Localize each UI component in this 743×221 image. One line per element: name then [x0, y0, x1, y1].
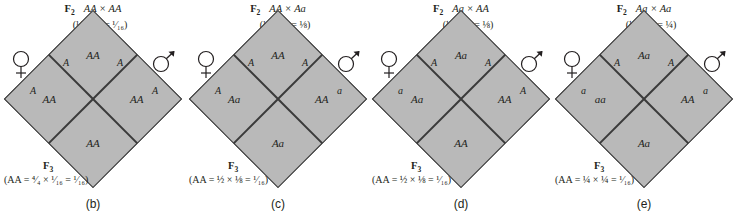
panel-b-female-gamete-top: A: [63, 57, 69, 68]
panel-d-cell-top-text: AA: [499, 93, 512, 105]
male-symbol: [519, 48, 545, 78]
panel-b-offspring-generation-label: F3: [43, 160, 53, 174]
panel-d-cell-left-text: Aa: [455, 49, 467, 61]
female-symbol: [559, 50, 585, 80]
panel-e-offspring-generation-label: F3: [594, 160, 604, 174]
panel-b-result: (AA = ⁴⁄₄ × ¹⁄₁₆ = ¹⁄₁₆): [0, 174, 150, 185]
panel-c-label: (c): [185, 197, 371, 211]
panel-b-square: AA AA AA AA: [30, 36, 156, 162]
panel-e-male-gamete-bottom: a: [703, 85, 708, 96]
panel-d-cell-right-text: AA: [454, 137, 467, 149]
panel-e-generation-label: F2: [617, 3, 627, 14]
panel-c-grid: AA AA Aa Aa: [189, 10, 367, 188]
female-symbol: [8, 50, 34, 80]
panel-c-generation-label: F2: [250, 3, 260, 14]
panel-b-cell-right-text: AA: [86, 137, 99, 149]
panel-e-cell-top-text: AA: [682, 93, 695, 105]
panel-d-square: Aa AA Aa AA: [398, 36, 524, 162]
panel-c-result: (AA = ½ × ⅛ = ¹⁄₁₆): [185, 174, 335, 185]
panel-c-female-gamete-top: A: [248, 57, 254, 68]
panel-b-male-gamete-bottom: A: [152, 85, 158, 96]
panel-e-result: (AA = ¼ × ¼ = ¹⁄₁₆): [551, 174, 701, 185]
panel-e-label: (e): [551, 197, 737, 211]
panel-b: F2AA × AA (¼ × ¼ = ¹⁄₁₆) AA AA AA AA A A…: [0, 0, 186, 221]
panel-e-male-gamete-top: A: [668, 57, 674, 68]
panel-b-generation-label: F2: [65, 3, 75, 14]
panel-d-offspring-generation-label: F3: [411, 160, 421, 174]
female-symbol: [193, 50, 219, 80]
panel-d-male-gamete-bottom: A: [520, 85, 526, 96]
female-symbol: [376, 50, 402, 80]
panel-e-cell-left-text: Aa: [638, 49, 650, 61]
panel-e-cell-bottom-text: aa: [594, 93, 605, 105]
panel-b-male-gamete-top: A: [117, 57, 123, 68]
male-symbol: [702, 48, 728, 78]
panel-b-grid: AA AA AA AA: [4, 10, 182, 188]
panel-d-male-gamete-top: A: [485, 57, 491, 68]
panel-c-cell-bottom-text: Aa: [228, 93, 240, 105]
panel-d-female-gamete-bottom: a: [398, 85, 403, 96]
panel-e-female-gamete-top: A: [614, 57, 620, 68]
panel-e-grid: Aa AA aa Aa: [555, 10, 733, 188]
panel-c-female-gamete-bottom: A: [215, 85, 221, 96]
male-symbol: [336, 48, 362, 78]
punnett-square-figure: F2AA × AA (¼ × ¼ = ¹⁄₁₆) AA AA AA AA A A…: [0, 0, 743, 221]
panel-d-female-gamete-top: A: [431, 57, 437, 68]
panel-d-label: (d): [368, 197, 554, 211]
panel-b-female-gamete-bottom: A: [30, 85, 36, 96]
panel-c: F2AA × Aa (¼ × ½ = ⅛) AA AA Aa Aa A A A …: [185, 0, 371, 221]
panel-e: F2Aa × Aa (½ × ½ = ¼) Aa AA aa Aa A a A …: [551, 0, 737, 221]
panel-c-square: AA AA Aa Aa: [215, 36, 341, 162]
panel-e-square: Aa AA aa Aa: [581, 36, 707, 162]
panel-b-cell-left-text: AA: [86, 49, 99, 61]
panel-b-cell-top-text: AA: [131, 93, 144, 105]
panel-c-male-gamete-top: A: [302, 57, 308, 68]
panel-d-cell-bottom-text: Aa: [411, 93, 423, 105]
panel-d-grid: Aa AA Aa AA: [372, 10, 550, 188]
panel-c-offspring-generation-label: F3: [228, 160, 238, 174]
male-symbol: [151, 48, 177, 78]
panel-d: F2Aa × AA (½ × ¼ = ⅛) Aa AA Aa AA A a A …: [368, 0, 554, 221]
panel-c-cell-right-text: Aa: [272, 137, 284, 149]
panel-c-cell-left-text: AA: [271, 49, 284, 61]
panel-e-cell-right-text: Aa: [638, 137, 650, 149]
panel-c-male-gamete-bottom: a: [337, 85, 342, 96]
panel-b-label: (b): [0, 197, 186, 211]
panel-c-cell-top-text: AA: [316, 93, 329, 105]
panel-d-result: (AA = ½ × ⅛ = ¹⁄₁₆): [368, 174, 518, 185]
panel-b-cell-bottom-text: AA: [42, 93, 55, 105]
panel-e-female-gamete-bottom: a: [581, 85, 586, 96]
panel-d-generation-label: F2: [433, 3, 443, 14]
